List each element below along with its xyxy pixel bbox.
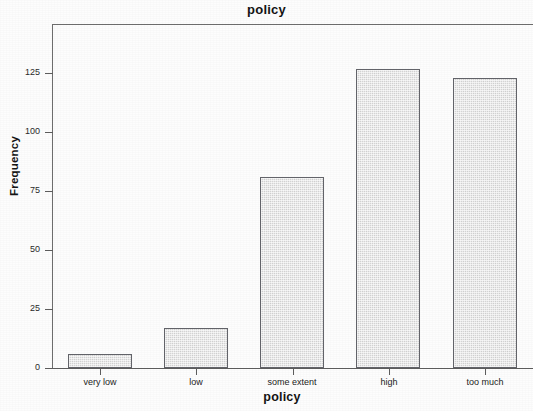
- x-axis-tick: [100, 369, 101, 375]
- y-axis-tick-label: 125: [6, 67, 40, 77]
- y-axis-tick-label: 50: [6, 244, 40, 254]
- y-axis-tick: [45, 132, 53, 133]
- y-axis-tick: [45, 191, 53, 192]
- y-axis-tick-label: 0: [6, 362, 40, 372]
- y-axis-tick: [45, 250, 53, 251]
- y-axis-tick-label: 100: [6, 126, 40, 136]
- bar: [260, 177, 324, 368]
- x-axis-tick-label: too much: [437, 377, 533, 387]
- x-axis-tick-label: low: [148, 377, 244, 387]
- x-axis-tick-label: very low: [52, 377, 148, 387]
- bar: [68, 354, 132, 368]
- bar: [164, 328, 228, 368]
- y-axis-tick: [45, 309, 53, 310]
- bar-chart-figure: policy Frequency 0255075100125 very lowl…: [0, 0, 533, 411]
- y-axis-tick-label: 75: [6, 185, 40, 195]
- x-axis-tick: [293, 369, 294, 375]
- x-axis-tick: [389, 369, 390, 375]
- y-axis-tick-label: 25: [6, 303, 40, 313]
- x-axis-tick-label: some extent: [244, 377, 340, 387]
- y-axis-tick: [45, 73, 53, 74]
- x-axis-tick: [485, 369, 486, 375]
- y-axis-tick: [45, 368, 53, 369]
- chart-title: policy: [0, 2, 533, 17]
- x-axis-label: policy: [52, 390, 512, 404]
- bar: [453, 78, 517, 368]
- x-axis-tick: [196, 369, 197, 375]
- bar: [356, 69, 420, 368]
- x-axis-tick-label: high: [341, 377, 437, 387]
